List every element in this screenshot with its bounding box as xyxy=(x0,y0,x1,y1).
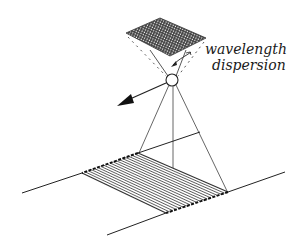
spectrometer-diagram: wavelength dispersion xyxy=(0,0,301,250)
wavelength-label: wavelength xyxy=(205,41,287,57)
dispersion-label: dispersion xyxy=(212,57,286,73)
